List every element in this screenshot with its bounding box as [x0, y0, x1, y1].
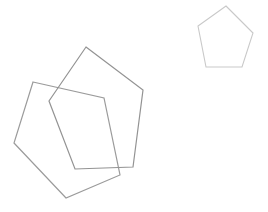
large-pentagon-back	[14, 82, 120, 198]
pentagon-canvas	[0, 0, 268, 212]
shape-image	[0, 0, 268, 212]
small-pentagon	[198, 6, 253, 67]
large-pentagon-front	[49, 47, 143, 169]
